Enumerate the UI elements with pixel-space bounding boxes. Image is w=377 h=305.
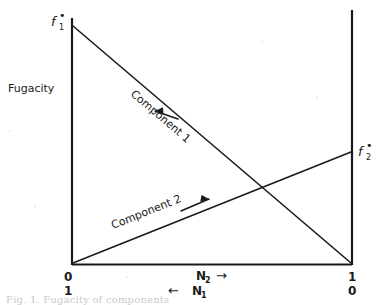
component-2-direction-arrow — [181, 195, 209, 211]
x-axis-bottom-arrow-icon: ← — [168, 283, 179, 298]
figure-caption: Fig. 1. Fugacity of components — [6, 294, 169, 305]
right-endpoint-subscript: 2 — [366, 153, 371, 162]
component-2-line — [73, 152, 351, 263]
x-axis-bottom-subscript: 1 — [201, 291, 207, 300]
y-axis-label: Fugacity — [8, 82, 55, 95]
right-tick-top-label: 1 — [348, 270, 356, 284]
right-tick-bottom-label: 0 — [348, 284, 356, 298]
x-axis-top-subscript: 2 — [205, 276, 211, 285]
right-endpoint-base: f — [358, 144, 365, 159]
component-2-label: Component 2 — [109, 192, 183, 232]
right-endpoint-superscript: • — [366, 139, 373, 152]
left-endpoint-label: f 1 • — [51, 9, 66, 32]
x-axis-bottom-annotation: ← N 1 — [168, 283, 207, 300]
left-endpoint-base: f — [51, 14, 58, 29]
left-endpoint-superscript: • — [59, 9, 66, 22]
x-axis-top-annotation: N 2 → — [196, 268, 227, 285]
left-tick-top-label: 0 — [64, 270, 72, 284]
right-tick-labels: 1 0 — [348, 270, 356, 298]
left-endpoint-subscript: 1 — [59, 23, 64, 32]
component-1-label: Component 1 — [128, 87, 193, 145]
x-axis-top-arrow-icon: → — [216, 268, 227, 283]
right-endpoint-label: f 2 • — [358, 139, 373, 162]
